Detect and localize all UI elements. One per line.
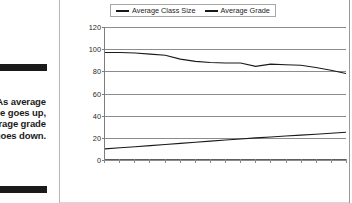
legend-item-average-class-size: Average Class Size xyxy=(116,7,196,15)
chart-plot-area: 020406080100120 xyxy=(63,27,346,182)
x-tick-mark xyxy=(270,159,271,163)
chart-container: Average Class Size Average Grade 0204060… xyxy=(59,0,350,203)
y-tick-label: 60 xyxy=(93,89,101,98)
y-tick-label: 100 xyxy=(89,45,101,54)
series-line-average-grade xyxy=(105,52,346,73)
x-tick-mark xyxy=(119,159,120,163)
x-tick-mark xyxy=(180,159,181,163)
chart-plot-inner: 020406080100120 xyxy=(104,27,346,160)
y-tick-label: 0 xyxy=(97,156,101,165)
y-tick-label: 80 xyxy=(93,67,101,76)
y-tick-label: 20 xyxy=(93,133,101,142)
x-tick-mark xyxy=(286,159,287,163)
x-tick-mark xyxy=(331,159,332,163)
x-tick-mark xyxy=(149,159,150,163)
y-tick-label: 120 xyxy=(89,23,101,32)
legend-label: Average Class Size xyxy=(132,7,196,15)
legend-label: Average Grade xyxy=(221,7,270,15)
legend-item-average-grade: Average Grade xyxy=(205,7,270,15)
x-tick-mark xyxy=(240,159,241,163)
x-tick-mark xyxy=(255,159,256,163)
x-tick-mark xyxy=(316,159,317,163)
line-swatch-icon xyxy=(116,10,129,12)
chart-legend: Average Class Size Average Grade xyxy=(110,4,276,17)
x-tick-mark xyxy=(165,159,166,163)
figure-caption: 17-8: As average class size goes up, the… xyxy=(0,96,46,141)
x-tick-mark xyxy=(346,159,347,163)
figure-page: 17-8: As average class size goes up, the… xyxy=(0,0,352,203)
x-tick-mark xyxy=(134,159,135,163)
x-tick-mark xyxy=(301,159,302,163)
caption-rule-top xyxy=(0,64,47,71)
caption-rule-bottom xyxy=(0,186,47,193)
chart-x-axis xyxy=(104,159,346,160)
x-tick-mark xyxy=(104,159,105,163)
line-swatch-icon xyxy=(205,10,218,12)
chart-series-layer xyxy=(105,27,346,160)
figure-caption-column: 17-8: As average class size goes up, the… xyxy=(0,0,57,203)
x-tick-mark xyxy=(195,159,196,163)
figure-caption-body: As average class size goes up, the avera… xyxy=(0,96,46,141)
series-line-average-class-size xyxy=(105,132,346,149)
x-tick-mark xyxy=(225,159,226,163)
x-tick-mark xyxy=(210,159,211,163)
y-tick-label: 40 xyxy=(93,111,101,120)
